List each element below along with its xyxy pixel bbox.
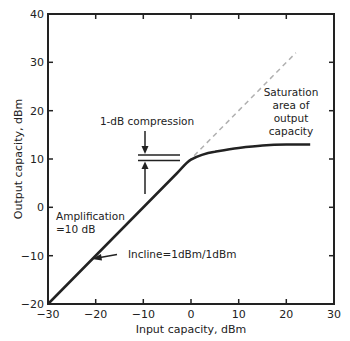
y-tick-label: 10: [30, 153, 44, 166]
compression-marker: [138, 131, 180, 194]
arrow-up-icon: [142, 162, 149, 170]
svg-text:area of: area of: [273, 99, 310, 111]
y-tick-label: 0: [37, 201, 44, 214]
x-axis-label: Input capacity, dBm: [136, 323, 247, 336]
amplification-label: Amplification =10 dB: [56, 210, 125, 235]
svg-text:capacity: capacity: [269, 125, 313, 137]
x-tick-label: 20: [279, 308, 293, 321]
x-tick-label: 30: [327, 308, 341, 321]
arrow-down-icon: [142, 146, 149, 154]
x-tick-labels: −30 −20 −10 0 10 20 30: [36, 308, 341, 321]
compression-label: 1-dB compression: [100, 115, 194, 127]
y-tick-label: −10: [21, 250, 44, 263]
incline-arrow-line: [100, 255, 117, 258]
y-tick-label: −20: [21, 298, 44, 311]
x-tick-label: −20: [84, 308, 107, 321]
y-tick-label: 40: [30, 8, 44, 21]
y-tick-label: 30: [30, 56, 44, 69]
x-tick-label: −10: [132, 308, 155, 321]
y-axis-label: Output capacity, dBm: [12, 99, 25, 219]
x-tick-label: 0: [188, 308, 195, 321]
chart: −30 −20 −10 0 10 20 30 −20 −10 0 10 20 3…: [0, 0, 350, 341]
y-tick-label: 20: [30, 105, 44, 118]
incline-label: Incline=1dBm/1dBm: [128, 248, 236, 260]
x-tick-label: 10: [232, 308, 246, 321]
svg-text:output: output: [274, 112, 309, 124]
svg-text:Amplification: Amplification: [56, 210, 125, 222]
svg-text:Saturation: Saturation: [264, 86, 319, 98]
svg-text:=10 dB: =10 dB: [56, 223, 95, 235]
saturation-label: Saturation area of output capacity: [264, 86, 319, 137]
